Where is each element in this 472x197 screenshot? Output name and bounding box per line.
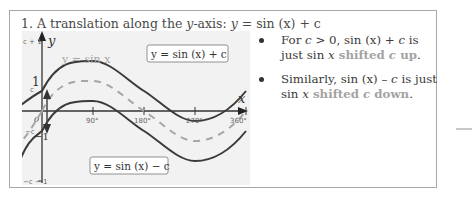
svg-text:y: y (47, 33, 56, 48)
margin-mark (456, 128, 472, 130)
bullet-icon (259, 77, 264, 82)
svg-text:0: 0 (34, 115, 39, 124)
svg-text:c + 1: c + 1 (23, 38, 42, 46)
svg-text:90°: 90° (86, 117, 98, 125)
svg-text:y = sin (x) + c: y = sin (x) + c (150, 48, 227, 60)
svg-text:1: 1 (32, 75, 40, 89)
svg-text:y = sin (x) − c: y = sin (x) − c (93, 160, 170, 172)
bullet-shift-down: Similarly, sin (x) – c is just sin x shi… (254, 72, 439, 102)
svg-text:y = sin x: y = sin x (61, 53, 111, 66)
explanation-list: For c > 0, sin (x) + c is just sin x shi… (254, 33, 439, 111)
svg-text:x: x (238, 91, 246, 106)
svg-text:−1: −1 (34, 131, 49, 142)
svg-text:−c − 1: −c − 1 (23, 178, 47, 185)
section-title: 1. A translation along the y-axis: y = s… (21, 16, 321, 31)
arrow-up-icon (43, 89, 51, 99)
content-panel: 1. A translation along the y-axis: y = s… (9, 10, 437, 188)
sine-translation-graph: c + 1 c −c −c − 1 90° 180° 270° 360° 1 −… (22, 31, 250, 185)
bullet-shift-up: For c > 0, sin (x) + c is just sin x shi… (254, 33, 439, 63)
svg-text:270°: 270° (186, 117, 203, 125)
svg-text:360°: 360° (230, 117, 247, 125)
bullet-icon (259, 38, 264, 43)
svg-text:180°: 180° (134, 117, 151, 125)
